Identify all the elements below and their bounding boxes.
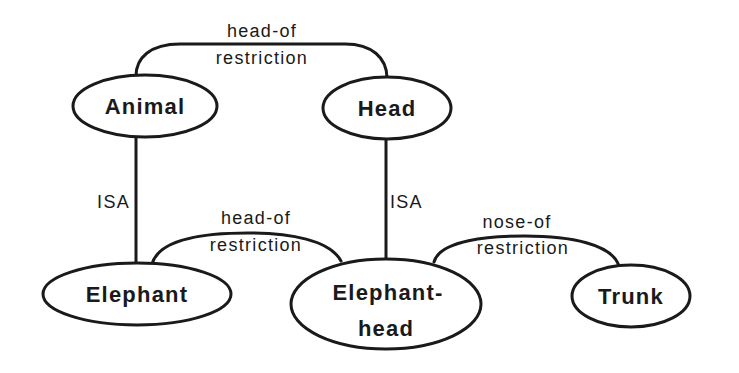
node-trunk-label: Trunk	[598, 284, 664, 309]
node-animal-label: Animal	[105, 94, 186, 119]
node-head-label: Head	[358, 96, 417, 121]
node-elephant-head: Elephant- head	[291, 259, 481, 349]
node-elephant-head-label-line1: Elephant-	[332, 280, 443, 305]
edge-label-elephanthead-isa-head: ISA	[390, 192, 423, 212]
node-elephant: Elephant	[43, 263, 231, 325]
edge-label-elephant-elephanthead-line2: restriction	[210, 235, 302, 255]
edge-label-elephanthead-trunk-line1: nose-of	[482, 212, 551, 232]
edge-label-elephant-elephanthead-line1: head-of	[221, 208, 291, 228]
node-elephant-head-label-line2: head	[358, 316, 414, 341]
node-head: Head	[323, 77, 451, 139]
edge-label-elephanthead-trunk-line2: restriction	[477, 238, 569, 258]
edge-label-elephant-isa-animal: ISA	[97, 192, 130, 212]
node-elephant-label: Elephant	[86, 282, 189, 307]
semantic-network-diagram: head-of restriction ISA ISA head-of rest…	[0, 0, 739, 373]
node-animal: Animal	[73, 75, 217, 137]
edge-label-animal-head-line2: restriction	[216, 48, 308, 68]
edge-label-animal-head-line1: head-of	[227, 21, 297, 41]
node-trunk: Trunk	[572, 265, 690, 327]
